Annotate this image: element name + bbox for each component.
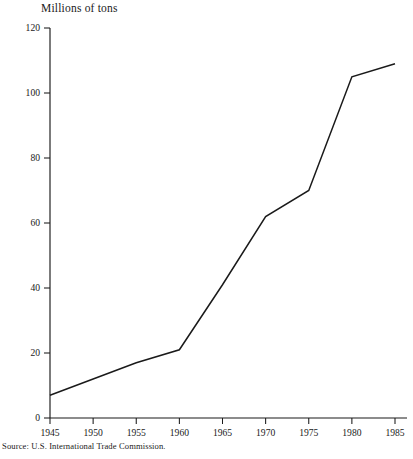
data-series-line [50,64,395,396]
y-axis: 020406080100120 [26,22,50,423]
y-tick-label: 40 [30,282,40,293]
y-tick-label: 20 [30,347,40,358]
y-axis-title: Millions of tons [41,2,118,14]
y-tick-label: 120 [26,22,41,33]
y-tick-label: 100 [26,87,41,98]
source-note: Source: U.S. International Trade Commiss… [2,441,166,451]
x-tick-label: 1950 [84,427,103,438]
x-tick-label: 1960 [170,427,189,438]
x-tick-label: 1985 [385,427,404,438]
y-tick-label: 60 [30,217,40,228]
x-tick-label: 1970 [256,427,275,438]
x-tick-label: 1955 [127,427,146,438]
x-tick-label: 1975 [299,427,318,438]
x-tick-label: 1980 [342,427,361,438]
x-tick-label: 1945 [40,427,59,438]
line-chart-plot: 020406080100120 194519501955196019651970… [0,0,413,459]
chart-figure: Millions of tons 020406080100120 1945195… [0,0,413,459]
y-tick-label: 0 [35,412,40,423]
y-tick-label: 80 [30,152,40,163]
x-tick-label: 1965 [213,427,232,438]
x-axis: 194519501955196019651970197519801985 [40,418,407,438]
